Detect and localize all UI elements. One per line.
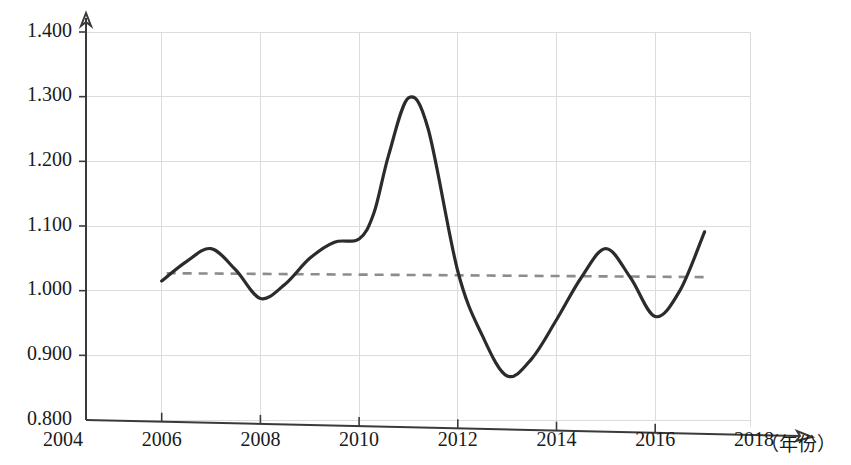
x-tick-labels: 20042006200820102012201420162018	[43, 428, 774, 450]
horizontal-gridlines	[86, 32, 750, 420]
x-tick-label: 2008	[240, 428, 280, 450]
y-tick-label: 1.000	[27, 277, 72, 299]
axis-lines	[81, 13, 812, 441]
x-tick-label: 2010	[339, 428, 379, 450]
trend-line-series	[167, 273, 705, 277]
y-tick-labels: 0.8000.9001.0001.1001.2001.3001.400	[27, 19, 72, 429]
x-tick-label: 2016	[635, 428, 675, 450]
vertical-gridlines	[162, 32, 750, 427]
y-tick-label: 1.200	[27, 148, 72, 170]
chart-canvas: 0.8000.9001.0001.1001.2001.3001.400 2004…	[0, 0, 851, 465]
y-tickmarks	[79, 32, 86, 355]
y-tick-label: 1.300	[27, 83, 72, 105]
x-tick-label: 2012	[438, 428, 478, 450]
x-tick-label: 2004	[43, 428, 83, 450]
x-axis-caption: （年份）	[760, 434, 836, 455]
y-tick-label: 0.900	[27, 342, 72, 364]
y-tick-label: 1.400	[27, 19, 72, 41]
data-line-series	[162, 97, 705, 377]
y-tick-label: 1.100	[27, 213, 72, 235]
x-tick-label: 2014	[537, 428, 577, 450]
line-chart: 0.8000.9001.0001.1001.2001.3001.400 2004…	[0, 0, 851, 465]
y-tick-label: 0.800	[27, 407, 72, 429]
x-tick-label: 2006	[142, 428, 182, 450]
